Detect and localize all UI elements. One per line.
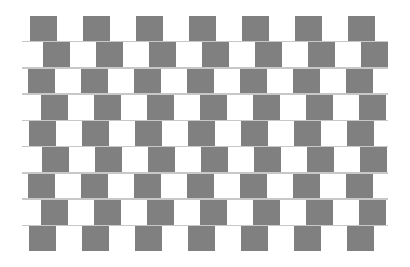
cafe-wall-illusion-figure: [22, 16, 388, 251]
cafe-wall-light-tile: [333, 200, 360, 225]
cafe-wall-dark-tile: [253, 95, 280, 120]
cafe-wall-light-tile: [56, 226, 83, 251]
cafe-wall-dark-tile: [347, 226, 374, 251]
cafe-wall-dark-tile: [306, 200, 333, 225]
cafe-wall-light-tile: [174, 95, 201, 120]
cafe-wall-dark-tile: [308, 42, 335, 67]
cafe-wall-light-tile: [321, 121, 348, 146]
cafe-wall-light-tile: [214, 69, 241, 94]
cafe-wall-light-tile: [108, 174, 135, 199]
cafe-wall-light-tile: [374, 121, 389, 146]
cafe-wall-dark-tile: [81, 69, 108, 94]
cafe-wall-dark-tile: [294, 121, 321, 146]
cafe-wall-light-tile: [57, 16, 84, 41]
cafe-wall-dark-tile: [346, 69, 373, 94]
cafe-wall-light-tile: [121, 95, 148, 120]
cafe-wall-dark-tile: [29, 226, 56, 251]
cafe-wall-light-tile: [320, 69, 347, 94]
cafe-wall-light-tile: [215, 226, 242, 251]
cafe-wall-light-tile: [321, 226, 348, 251]
cafe-wall-dark-tile: [134, 174, 161, 199]
cafe-wall-dark-tile: [255, 42, 282, 67]
cafe-wall-row: [22, 174, 388, 199]
cafe-wall-dark-tile: [293, 174, 320, 199]
cafe-wall-dark-tile: [295, 16, 322, 41]
cafe-wall-row: [22, 69, 388, 94]
cafe-wall-dark-tile: [188, 226, 215, 251]
cafe-wall-light-tile: [68, 95, 95, 120]
cafe-wall-dark-tile: [359, 95, 386, 120]
cafe-wall-light-tile: [22, 147, 42, 172]
cafe-wall-dark-tile: [134, 69, 161, 94]
cafe-wall-light-tile: [109, 226, 136, 251]
cafe-wall-row-tiles: [22, 121, 388, 146]
cafe-wall-light-tile: [55, 174, 82, 199]
cafe-wall-dark-tile: [135, 121, 162, 146]
cafe-wall-dark-tile: [200, 200, 227, 225]
cafe-wall-dark-tile: [361, 42, 388, 67]
cafe-wall-dark-tile: [149, 42, 176, 67]
cafe-wall-light-tile: [214, 174, 241, 199]
cafe-wall-light-tile: [22, 121, 29, 146]
cafe-wall-row: [22, 95, 388, 120]
cafe-wall-light-tile: [161, 174, 188, 199]
cafe-wall-row-tiles: [22, 69, 388, 94]
cafe-wall-dark-tile: [135, 226, 162, 251]
cafe-wall-dark-tile: [187, 174, 214, 199]
cafe-wall-light-tile: [386, 95, 389, 120]
cafe-wall-row: [22, 121, 388, 146]
cafe-wall-light-tile: [267, 69, 294, 94]
cafe-wall-row-tiles: [22, 174, 388, 199]
cafe-wall-light-tile: [22, 226, 29, 251]
cafe-wall-light-tile: [334, 147, 361, 172]
cafe-wall-dark-tile: [94, 200, 121, 225]
cafe-wall-light-tile: [229, 42, 256, 67]
cafe-wall-light-tile: [161, 69, 188, 94]
cafe-wall-dark-tile: [294, 226, 321, 251]
cafe-wall-dark-tile: [240, 174, 267, 199]
cafe-wall-row: [22, 42, 388, 67]
cafe-wall-light-tile: [388, 42, 389, 67]
cafe-wall-dark-tile: [96, 42, 123, 67]
cafe-wall-light-tile: [162, 226, 189, 251]
cafe-wall-light-tile: [322, 16, 349, 41]
cafe-wall-dark-tile: [187, 69, 214, 94]
cafe-wall-light-tile: [280, 95, 307, 120]
cafe-wall-light-tile: [122, 147, 149, 172]
cafe-wall-dark-tile: [293, 69, 320, 94]
cafe-wall-light-tile: [375, 16, 389, 41]
cafe-wall-row-tiles: [22, 16, 388, 41]
cafe-wall-light-tile: [56, 121, 83, 146]
cafe-wall-dark-tile: [240, 69, 267, 94]
cafe-wall-dark-tile: [41, 200, 68, 225]
cafe-wall-light-tile: [227, 95, 254, 120]
cafe-wall-light-tile: [374, 226, 389, 251]
cafe-wall-light-tile: [227, 200, 254, 225]
cafe-wall-light-tile: [268, 226, 295, 251]
cafe-wall-dark-tile: [307, 147, 334, 172]
cafe-wall-row: [22, 226, 388, 251]
cafe-wall-dark-tile: [306, 95, 333, 120]
cafe-wall-light-tile: [333, 95, 360, 120]
cafe-wall-light-tile: [267, 174, 294, 199]
cafe-wall-light-tile: [110, 16, 137, 41]
cafe-wall-dark-tile: [136, 16, 163, 41]
cafe-wall-dark-tile: [42, 147, 69, 172]
cafe-wall-light-tile: [268, 121, 295, 146]
cafe-wall-light-tile: [22, 200, 41, 225]
cafe-wall-dark-tile: [346, 174, 373, 199]
cafe-wall-dark-tile: [347, 121, 374, 146]
cafe-wall-light-tile: [216, 16, 243, 41]
cafe-wall-light-tile: [386, 200, 389, 225]
cafe-wall-dark-tile: [201, 147, 228, 172]
cafe-wall-dark-tile: [81, 174, 108, 199]
cafe-wall-dark-tile: [28, 174, 55, 199]
cafe-wall-dark-tile: [43, 42, 70, 67]
cafe-wall-light-tile: [121, 200, 148, 225]
cafe-wall-dark-tile: [253, 200, 280, 225]
cafe-wall-dark-tile: [147, 200, 174, 225]
cafe-wall-dark-tile: [94, 95, 121, 120]
cafe-wall-dark-tile: [147, 95, 174, 120]
cafe-wall-light-tile: [280, 200, 307, 225]
cafe-wall-row-tiles: [22, 200, 388, 225]
